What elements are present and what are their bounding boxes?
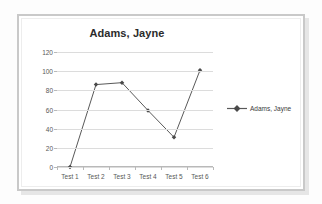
chart-title: Adams, Jayne [21,27,233,39]
x-axis-tick [135,167,136,170]
x-axis-label: Test 3 [113,173,130,180]
gridline [57,71,213,72]
x-axis-tick [213,167,214,170]
x-axis-tick [57,167,58,170]
y-axis-label: 100 [42,68,53,75]
gridline [57,90,213,91]
legend-marker-icon [227,104,247,113]
y-axis-label: 20 [46,144,53,151]
y-axis-tick [54,90,57,91]
y-axis-tick [54,148,57,149]
gridline [57,129,213,130]
legend-label-adams-jayne: Adams, Jayne [250,105,291,112]
gridline [57,52,213,53]
y-axis-label: 60 [46,106,53,113]
gridline [57,148,213,149]
gridline [57,110,213,111]
x-axis-tick [109,167,110,170]
chart-screenshot: Adams, Jayne 120100806040200Test 1Test 2… [0,0,322,204]
series-line [70,70,200,167]
y-axis-tick [54,71,57,72]
y-axis-label: 0 [49,164,53,171]
x-axis-label: Test 1 [61,173,78,180]
y-axis-label: 40 [46,125,53,132]
chart-canvas: Adams, Jayne 120100806040200Test 1Test 2… [21,18,301,187]
x-axis-label: Test 2 [87,173,104,180]
y-axis-tick [54,52,57,53]
plot-area: 120100806040200Test 1Test 2Test 3Test 4T… [57,52,213,167]
x-axis-tick [83,167,84,170]
x-axis-label: Test 4 [139,173,156,180]
y-axis-label: 120 [42,49,53,56]
x-axis-label: Test 6 [191,173,208,180]
x-axis-label: Test 5 [165,173,182,180]
data-point-marker [94,82,99,87]
y-axis-label: 80 [46,87,53,94]
x-axis-tick [161,167,162,170]
y-axis-tick [54,110,57,111]
chart-legend: Adams, Jayne [227,104,291,113]
y-axis-tick [54,129,57,130]
x-axis-tick [187,167,188,170]
